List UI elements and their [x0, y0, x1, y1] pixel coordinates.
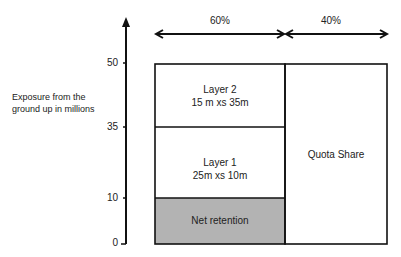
- pct-40-label: 40%: [306, 14, 356, 27]
- y-axis-label: Exposure from the ground up in millions: [12, 91, 95, 115]
- layer2-terms: 15 m xs 35m: [155, 96, 285, 109]
- y-axis-label-line2: ground up in millions: [12, 103, 95, 115]
- tick-50: 50: [94, 57, 118, 68]
- layer1-terms: 25m xs 10m: [155, 169, 285, 182]
- layer2-label: Layer 2 15 m xs 35m: [155, 83, 285, 109]
- tick-35: 35: [94, 121, 118, 132]
- layer1-label: Layer 1 25m xs 10m: [155, 156, 285, 182]
- tick-0: 0: [94, 237, 118, 248]
- layer1-title: Layer 1: [155, 156, 285, 169]
- tick-10: 10: [94, 192, 118, 203]
- quota-share-label: Quota Share: [285, 148, 387, 161]
- y-axis-label-line1: Exposure from the: [12, 91, 95, 103]
- net-retention-label: Net retention: [155, 214, 285, 227]
- pct-60-label: 60%: [195, 14, 245, 27]
- layer2-title: Layer 2: [155, 83, 285, 96]
- y-axis-arrow-icon: [122, 17, 130, 27]
